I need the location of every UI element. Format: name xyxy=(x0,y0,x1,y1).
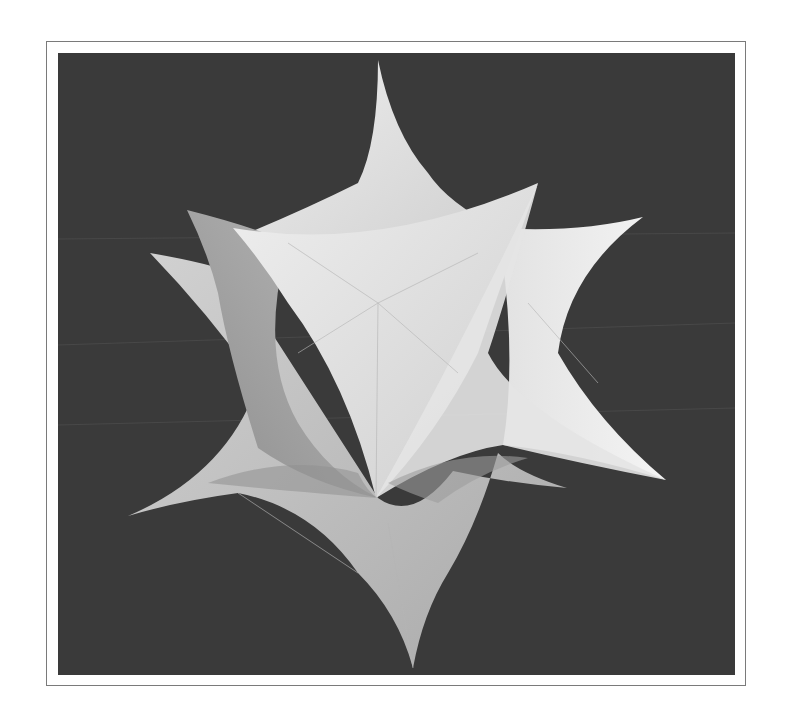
star-polyhedron-render xyxy=(58,53,735,675)
render-viewport xyxy=(58,53,735,675)
